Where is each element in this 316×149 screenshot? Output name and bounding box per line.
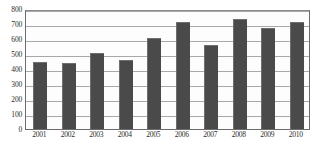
y-axis-tick-label: 500 (11, 51, 22, 59)
bar-chart: 0100200300400500600700800 20012002200320… (0, 0, 316, 149)
bar (233, 19, 247, 129)
y-axis-tick-label: 700 (11, 21, 22, 29)
bar (62, 63, 76, 129)
x-axis-tick-label: 2001 (32, 131, 46, 139)
clipped-caption (4, 142, 312, 149)
x-axis-tick-label: 2005 (146, 131, 160, 139)
x-axis-tick-label: 2010 (289, 131, 303, 139)
y-axis-tick-label: 200 (11, 96, 22, 104)
bar (147, 38, 161, 129)
bar (90, 53, 104, 130)
x-axis-tick-label: 2003 (89, 131, 103, 139)
plot-area (25, 10, 310, 130)
bar (176, 22, 190, 129)
y-axis-tick-label: 600 (11, 36, 22, 44)
y-axis-tick-label: 400 (11, 66, 22, 74)
x-axis-tick-label: 2007 (203, 131, 217, 139)
bar (204, 45, 218, 129)
y-axis: 0100200300400500600700800 (0, 0, 24, 149)
y-axis-tick-label: 100 (11, 111, 22, 119)
x-axis-tick-label: 2002 (61, 131, 75, 139)
bar (290, 22, 304, 129)
y-axis-tick-label: 0 (18, 126, 22, 134)
bar-series (26, 11, 309, 129)
y-axis-tick-label: 800 (11, 6, 22, 14)
bar (119, 60, 133, 129)
x-axis-tick-label: 2008 (232, 131, 246, 139)
y-axis-tick-label: 300 (11, 81, 22, 89)
x-axis-tick-label: 2004 (118, 131, 132, 139)
x-axis-tick-label: 2009 (260, 131, 274, 139)
x-axis-tick-label: 2006 (175, 131, 189, 139)
bar (261, 28, 275, 129)
bar (33, 62, 47, 129)
